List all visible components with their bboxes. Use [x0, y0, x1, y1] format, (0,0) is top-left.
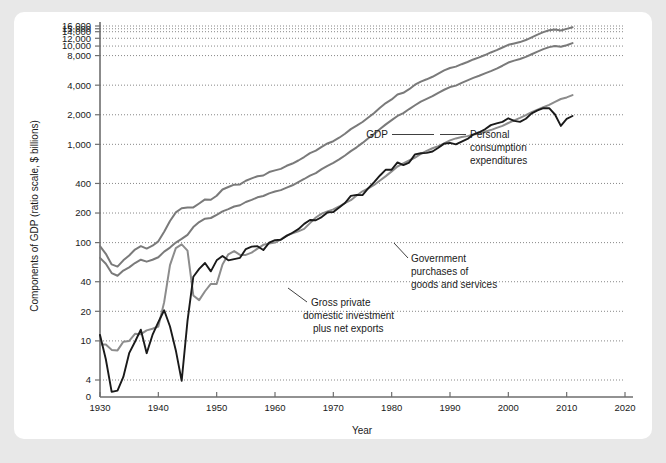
annotation-gpdi-line2: domestic investment [303, 310, 394, 321]
annotation-gpdi-line3: plus net exports [313, 323, 384, 334]
y-tick-label-zero: 0 [86, 391, 91, 402]
y-tick-label: 20 [80, 306, 91, 317]
leader-gov [394, 243, 408, 258]
x-tick-label: 1970 [323, 402, 344, 413]
y-tick-label: 1,000 [67, 139, 91, 150]
y-tick-label: 200 [75, 207, 91, 218]
annotation-pce-line3: expenditures [470, 155, 527, 166]
annotation-gov-line3: goods and services [411, 279, 497, 290]
x-tick-label: 2000 [498, 402, 519, 413]
x-tick-label: 2020 [614, 402, 635, 413]
annotation-pce-line2: consumption [470, 142, 527, 153]
x-tick-label: 1950 [206, 402, 227, 413]
data-series-group [100, 27, 573, 392]
chart-figure: 41020401002004001,0002,0004,0008,00010,0… [0, 0, 666, 463]
y-tick-label: 40 [80, 276, 91, 287]
x-tick-label: 1930 [89, 402, 110, 413]
x-tick-label: 1940 [148, 402, 169, 413]
y-tick-label: 4 [86, 374, 91, 385]
annotation-gov-line1: Government [411, 253, 466, 264]
y-tick-label: 10 [80, 335, 91, 346]
annotation-pce-line1: Personal [470, 129, 509, 140]
x-tick-label: 1980 [381, 402, 402, 413]
annotations-group: GDPPersonalconsumptionexpendituresGovern… [288, 129, 527, 334]
y-tick-label: 100 [75, 237, 91, 248]
y-axis-title: Components of GDP (ratio scale, $ billio… [29, 120, 40, 312]
y-tick-label: 16,000 [62, 20, 91, 31]
gdp-components-line-chart: 41020401002004001,0002,0004,0008,00010,0… [0, 0, 666, 463]
screenshot-root: 41020401002004001,0002,0004,0008,00010,0… [0, 0, 666, 463]
x-tick-labels-group: 1930194019501960197019801990200020102020 [89, 402, 635, 413]
annotation-gdp: GDP [366, 129, 388, 140]
y-tick-label: 400 [75, 178, 91, 189]
annotation-gpdi-line1: Gross private [311, 297, 371, 308]
x-tick-label: 2010 [556, 402, 577, 413]
x-axis-title: Year [352, 425, 373, 436]
leader-gpdi [288, 288, 307, 302]
x-tick-label: 1990 [439, 402, 460, 413]
y-tick-label: 2,000 [67, 109, 91, 120]
annotation-gov-line2: purchases of [411, 266, 468, 277]
y-tick-labels-group: 41020401002004001,0002,0004,0008,00010,0… [62, 20, 91, 402]
y-tick-label: 4,000 [67, 80, 91, 91]
y-tick-label: 8,000 [67, 50, 91, 61]
x-tick-label: 1960 [264, 402, 285, 413]
